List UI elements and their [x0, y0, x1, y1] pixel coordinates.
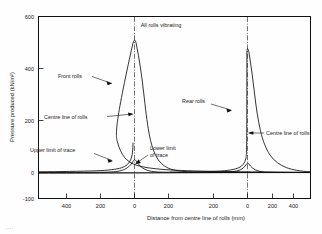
arrowhead-front-rolls — [107, 81, 113, 85]
annotation-centre-line-left: Centre line of rolls — [44, 114, 88, 120]
chart-svg: 600 400 200 0 -100 Pressure produced (kN… — [0, 0, 322, 234]
x-tick-l-200: 200 — [96, 203, 105, 209]
annotation-lower-limit-line2: of trace — [150, 152, 168, 158]
annotation-upper-limit: Upper limit of trace — [30, 147, 75, 153]
annotation-front-rolls: Front rolls — [58, 73, 82, 79]
x-tick-r-400: 400 — [289, 203, 298, 209]
leader-upper-limit — [94, 154, 112, 161]
x-tick-l-200b: 200 — [164, 203, 173, 209]
series-front-lower — [39, 160, 250, 173]
figure-caption: .... — [6, 224, 14, 230]
arrowhead-centre-line-right — [248, 131, 253, 135]
x-tick-r-200: 200 — [209, 203, 218, 209]
x-axis-ticks — [67, 194, 294, 199]
series-rear-upper — [170, 49, 310, 173]
y-tick-neg100: -100 — [23, 196, 34, 202]
y-axis-tick-labels: 600 400 200 0 -100 — [23, 14, 34, 202]
y-tick-600: 600 — [25, 14, 34, 20]
annotation-centre-line-right: Centre line of rolls — [266, 130, 310, 136]
arrowhead-upper-limit — [107, 159, 113, 163]
y-tick-200: 200 — [25, 118, 34, 124]
x-tick-r-200b: 200 — [268, 203, 277, 209]
x-tick-r-0: 0 — [246, 203, 249, 209]
y-axis-title: Pressure produced (kN/m²) — [9, 72, 15, 142]
annotation-lower-limit-line1: Lower limit — [150, 145, 176, 151]
x-tick-l-0: 0 — [133, 203, 136, 209]
annotation-all-rolls-vibrating: All rolls vibrating — [141, 22, 182, 28]
y-tick-0: 0 — [31, 170, 34, 176]
x-tick-l-400: 400 — [62, 203, 71, 209]
y-axis-ticks — [39, 17, 46, 199]
arrowhead-centre-line-left — [128, 112, 134, 116]
x-axis-tick-labels: 400 200 0 200 200 0 200 400 — [62, 203, 298, 209]
annotation-rear-rolls: Rear rolls — [182, 98, 205, 104]
arrowhead-rear-rolls — [226, 109, 232, 113]
series-front-upper — [116, 40, 310, 172]
y-tick-400: 400 — [25, 66, 34, 72]
chart-canvas: 600 400 200 0 -100 Pressure produced (kN… — [0, 0, 322, 234]
figure-root: 600 400 200 0 -100 Pressure produced (kN… — [0, 0, 322, 234]
x-axis-title: Distance from centre line of rolls (mm) — [147, 215, 245, 221]
